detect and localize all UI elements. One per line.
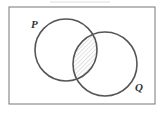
- set-p-label: P: [31, 18, 38, 30]
- set-q-label: Q: [135, 81, 143, 93]
- venn-diagram: [0, 0, 158, 114]
